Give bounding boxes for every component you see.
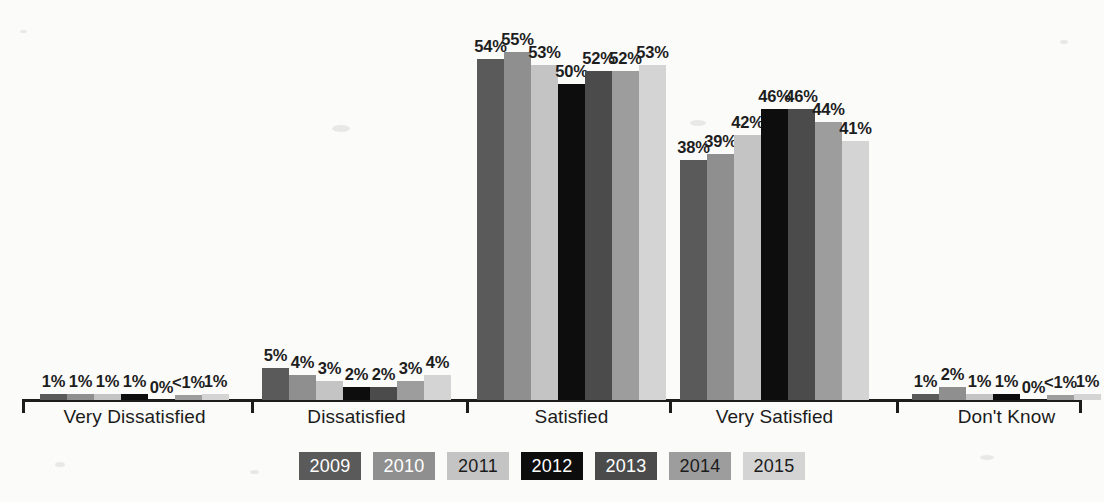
bar-2012-very-dissatisfied: 1% <box>121 0 148 400</box>
bar-rect <box>262 368 289 400</box>
bar-rect <box>504 52 531 400</box>
bar-value-label: 2% <box>372 365 395 384</box>
bar-value-label: 41% <box>839 119 871 138</box>
x-axis-tick-3 <box>896 399 899 413</box>
bar-value-label: 39% <box>704 132 736 151</box>
bar-2015-don-t-know: 1% <box>1074 0 1101 400</box>
bar-2015-satisfied: 53% <box>639 0 666 400</box>
category-label-satisfied: Satisfied <box>477 406 666 428</box>
bar-2013-very-dissatisfied: 0% <box>148 0 175 400</box>
legend-item-2014[interactable]: 2014 <box>669 452 731 480</box>
bar-2014-very-dissatisfied: <1% <box>175 0 202 400</box>
bar-rect <box>815 122 842 400</box>
bar-rect <box>202 394 229 400</box>
legend-item-2009[interactable]: 2009 <box>299 452 361 480</box>
bar-rect <box>316 381 343 400</box>
bar-rect <box>788 109 815 400</box>
bar-2014-dissatisfied: 3% <box>397 0 424 400</box>
legend-item-2010[interactable]: 2010 <box>373 452 435 480</box>
bar-value-label: 3% <box>399 359 422 378</box>
bar-value-label: 1% <box>96 372 119 391</box>
bar-value-label: 1% <box>204 372 227 391</box>
bar-2014-don-t-know: <1% <box>1047 0 1074 400</box>
bar-rect <box>94 394 121 400</box>
bar-2009-don-t-know: 1% <box>912 0 939 400</box>
bar-2013-very-satisfied: 46% <box>788 0 815 400</box>
bar-2009-satisfied: 54% <box>477 0 504 400</box>
bar-2011-very-satisfied: 42% <box>734 0 761 400</box>
bar-2011-satisfied: 53% <box>531 0 558 400</box>
bar-value-label: 1% <box>69 372 92 391</box>
bar-rect <box>842 141 869 400</box>
x-axis-tick-2 <box>669 399 672 413</box>
bar-value-label: <1% <box>1044 373 1077 392</box>
bar-rect <box>397 381 424 400</box>
bar-rect <box>1047 395 1074 400</box>
bar-2009-very-dissatisfied: 1% <box>40 0 67 400</box>
bar-2013-satisfied: 52% <box>585 0 612 400</box>
bar-2015-dissatisfied: 4% <box>424 0 451 400</box>
bar-rect <box>1074 394 1101 400</box>
bar-value-label: 1% <box>968 372 991 391</box>
bar-2015-very-dissatisfied: 1% <box>202 0 229 400</box>
legend-swatch-2012: 2012 <box>521 452 583 480</box>
x-axis-tick-0 <box>251 399 254 413</box>
chart-legend: 2009201020112012201320142015 <box>0 452 1104 480</box>
bar-2010-don-t-know: 2% <box>939 0 966 400</box>
bar-rect <box>939 387 966 400</box>
bar-rect <box>639 65 666 400</box>
bar-2013-dissatisfied: 2% <box>370 0 397 400</box>
bar-rect <box>966 394 993 400</box>
bar-rect <box>424 375 451 400</box>
bar-rect <box>734 135 761 400</box>
category-label-very-dissatisfied: Very Dissatisfied <box>40 406 229 428</box>
bar-value-label: 0% <box>1022 378 1045 397</box>
category-label-don-t-know: Don't Know <box>912 406 1101 428</box>
bar-rect <box>558 84 585 400</box>
bar-2015-very-satisfied: 41% <box>842 0 869 400</box>
bar-rect <box>680 160 707 400</box>
legend-swatch-2013: 2013 <box>595 452 657 480</box>
legend-item-2015[interactable]: 2015 <box>743 452 805 480</box>
bar-2014-satisfied: 52% <box>612 0 639 400</box>
bar-rect <box>175 395 202 400</box>
bar-2013-don-t-know: 0% <box>1020 0 1047 400</box>
bar-rect <box>477 59 504 400</box>
bar-2011-don-t-know: 1% <box>966 0 993 400</box>
category-label-very-satisfied: Very Satisfied <box>680 406 869 428</box>
legend-item-2011[interactable]: 2011 <box>447 452 509 480</box>
legend-swatch-2011: 2011 <box>447 452 509 480</box>
legend-swatch-2014: 2014 <box>669 452 731 480</box>
bar-value-label: 4% <box>291 353 314 372</box>
bar-value-label: 1% <box>1076 372 1099 391</box>
category-label-dissatisfied: Dissatisfied <box>262 406 451 428</box>
legend-swatch-2009: 2009 <box>299 452 361 480</box>
bar-2012-satisfied: 50% <box>558 0 585 400</box>
legend-item-2012[interactable]: 2012 <box>521 452 583 480</box>
bar-value-label: 1% <box>914 372 937 391</box>
x-axis-left-cap <box>22 399 25 413</box>
bar-2010-very-satisfied: 39% <box>707 0 734 400</box>
bar-value-label: 2% <box>345 365 368 384</box>
bar-rect <box>612 71 639 400</box>
satisfaction-bar-chart: 1%1%1%1%0%<1%1%5%4%3%2%2%3%4%54%55%53%50… <box>0 0 1104 502</box>
legend-swatch-2010: 2010 <box>373 452 435 480</box>
bar-2010-satisfied: 55% <box>504 0 531 400</box>
bar-2010-dissatisfied: 4% <box>289 0 316 400</box>
bar-rect <box>289 375 316 400</box>
bar-2012-very-satisfied: 46% <box>761 0 788 400</box>
bar-value-label: <1% <box>172 373 205 392</box>
bar-rect <box>343 387 370 400</box>
legend-item-2013[interactable]: 2013 <box>595 452 657 480</box>
bar-value-label: 53% <box>636 43 668 62</box>
bar-rect <box>585 71 612 400</box>
bar-2012-don-t-know: 1% <box>993 0 1020 400</box>
bar-value-label: 44% <box>812 100 844 119</box>
bar-2011-dissatisfied: 3% <box>316 0 343 400</box>
plot-area: 1%1%1%1%0%<1%1%5%4%3%2%2%3%4%54%55%53%50… <box>0 0 1104 400</box>
bar-rect <box>761 109 788 400</box>
bar-rect <box>370 387 397 400</box>
bar-value-label: 42% <box>731 113 763 132</box>
bar-value-label: 0% <box>150 378 173 397</box>
bar-2010-very-dissatisfied: 1% <box>67 0 94 400</box>
